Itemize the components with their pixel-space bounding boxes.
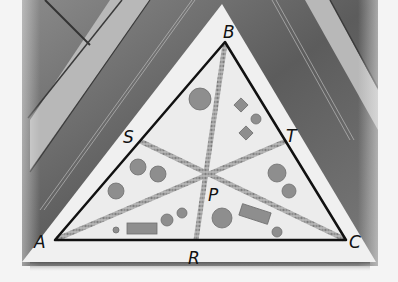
tree-icon xyxy=(108,183,124,199)
tree-icon xyxy=(272,227,282,237)
tree-icon xyxy=(161,214,173,226)
sidewalk-shadow xyxy=(30,262,370,272)
tree-icon xyxy=(113,227,119,233)
label-T: T xyxy=(286,126,298,146)
tree-icon xyxy=(251,114,261,124)
label-C: C xyxy=(349,232,361,252)
label-P: P xyxy=(208,185,219,205)
tree-icon xyxy=(130,159,146,175)
fade-right xyxy=(358,0,398,282)
tree-icon xyxy=(150,166,166,182)
label-S: S xyxy=(123,127,134,147)
bed-icon xyxy=(127,223,157,234)
tree-icon xyxy=(212,208,232,228)
triangle-park-figure: A B C R S T P xyxy=(0,0,398,282)
tree-icon xyxy=(282,184,296,198)
label-B: B xyxy=(223,22,235,42)
tree-icon xyxy=(268,164,286,182)
tree-icon xyxy=(177,208,187,218)
label-R: R xyxy=(188,248,200,268)
tree-icon xyxy=(189,88,211,110)
label-A: A xyxy=(33,232,46,252)
